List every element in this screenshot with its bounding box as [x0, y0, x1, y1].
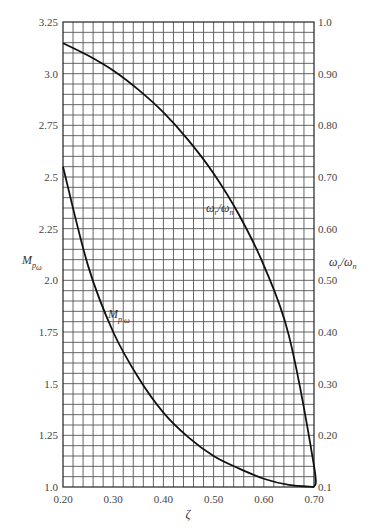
x-tick-label: 0.20 — [53, 493, 73, 505]
x-tick-label: 0.30 — [104, 493, 124, 505]
x-axis-label: ζ — [186, 507, 192, 521]
mp-curve-annotation: Mp ω — [107, 307, 130, 325]
left-tick-label: 2.25 — [39, 223, 59, 235]
x-tick-label: 0.70 — [304, 493, 324, 505]
plot-frame — [63, 22, 314, 487]
left-tick-label: 1.5 — [44, 378, 58, 390]
wr-curve-annotation: ωr/ωn — [206, 201, 233, 217]
left-axis-ticks: 1.01.251.51.752.02.252.52.753.03.25 — [39, 16, 59, 493]
right-tick-label: 0.80 — [318, 119, 338, 131]
left-tick-label: 3.0 — [44, 68, 58, 80]
right-tick-label: 0.70 — [318, 171, 338, 183]
left-tick-label: 2.5 — [44, 171, 58, 183]
left-tick-label: 2.75 — [39, 119, 59, 131]
right-tick-label: 0.1 — [318, 481, 332, 493]
right-tick-label: 0.90 — [318, 68, 338, 80]
x-tick-label: 0.50 — [204, 493, 224, 505]
right-tick-label: 0.20 — [318, 429, 338, 441]
x-axis-ticks: 0.200.300.400.500.600.70 — [53, 493, 324, 505]
right-tick-label: 1.0 — [318, 16, 332, 28]
left-tick-label: 1.25 — [39, 429, 59, 441]
x-tick-label: 0.40 — [154, 493, 174, 505]
right-tick-label: 0.40 — [318, 326, 338, 338]
left-tick-label: 2.0 — [44, 274, 58, 286]
mp-curve — [63, 167, 314, 487]
right-tick-label: 0.50 — [318, 274, 338, 286]
right-axis-label: ωr/ωn — [329, 255, 356, 271]
left-axis-label: Mpω — [21, 253, 42, 272]
chart-grid — [63, 22, 314, 487]
left-tick-label: 1.75 — [39, 326, 59, 338]
resonance-chart: 0.200.300.400.500.600.70 1.01.251.51.752… — [0, 0, 385, 528]
left-tick-label: 3.25 — [39, 16, 59, 28]
x-tick-label: 0.60 — [254, 493, 274, 505]
right-tick-label: 0.60 — [318, 223, 338, 235]
wr-wn-curve — [63, 43, 316, 487]
left-tick-label: 1.0 — [44, 481, 58, 493]
right-tick-label: 0.30 — [318, 378, 338, 390]
